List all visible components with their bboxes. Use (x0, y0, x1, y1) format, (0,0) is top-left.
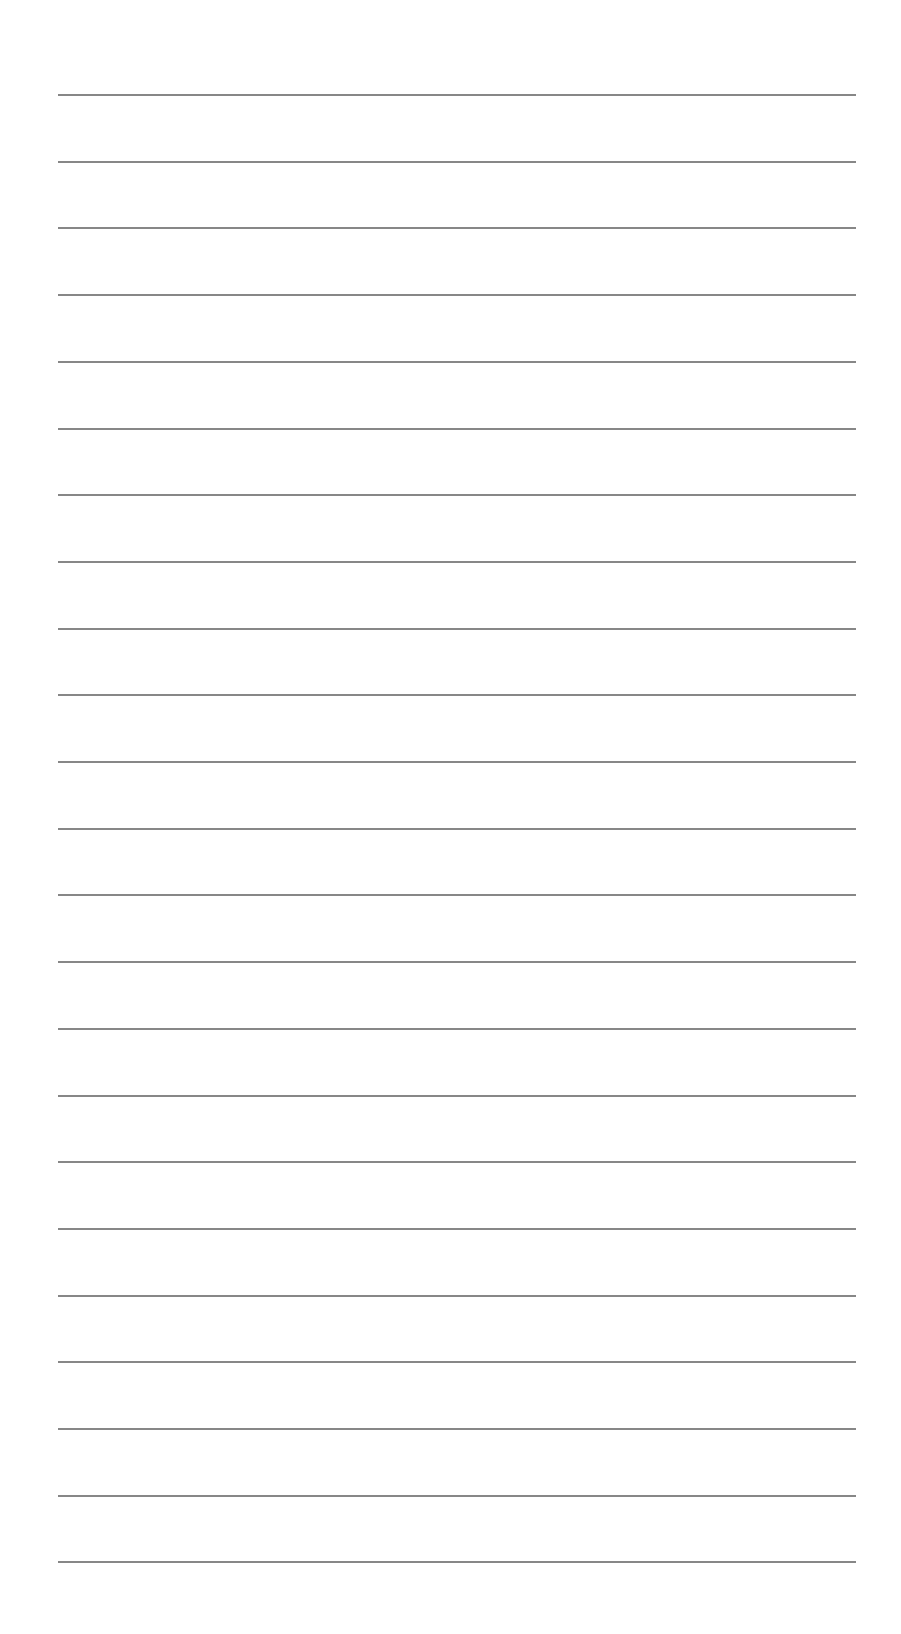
ruled-line (58, 94, 856, 96)
ruled-line (58, 428, 856, 430)
ruled-line (58, 761, 856, 763)
ruled-line (58, 227, 856, 229)
ruled-line (58, 1028, 856, 1030)
ruled-line (58, 361, 856, 363)
ruled-line (58, 294, 856, 296)
ruled-line (58, 1161, 856, 1163)
ruled-line (58, 1228, 856, 1230)
ruled-line (58, 1428, 856, 1430)
ruled-line (58, 494, 856, 496)
ruled-line (58, 694, 856, 696)
ruled-line (58, 1095, 856, 1097)
ruled-line (58, 1361, 856, 1363)
ruled-line (58, 628, 856, 630)
ruled-line (58, 1495, 856, 1497)
ruled-line (58, 961, 856, 963)
lined-paper-page (0, 0, 901, 1634)
ruled-line (58, 894, 856, 896)
ruled-line (58, 161, 856, 163)
ruled-line (58, 828, 856, 830)
ruled-line (58, 561, 856, 563)
ruled-line (58, 1561, 856, 1563)
ruled-line (58, 1295, 856, 1297)
